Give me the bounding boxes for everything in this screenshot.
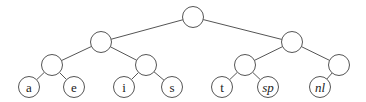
internal-node	[91, 32, 112, 53]
leaf-node-i: i	[114, 77, 135, 98]
internal-node	[42, 55, 63, 76]
tree-edge	[327, 73, 332, 79]
tree-edge	[37, 72, 45, 79]
tree-edge	[62, 46, 92, 60]
leaf-node-sp: sp	[258, 77, 279, 98]
tree-edge	[203, 20, 282, 40]
tree-edge	[254, 47, 282, 61]
tree-edge	[111, 20, 183, 39]
node-circle	[183, 7, 204, 28]
leaf-node-s: s	[162, 77, 183, 98]
tree-edge	[110, 47, 136, 60]
node-label: i	[122, 80, 126, 95]
tree-edge	[131, 72, 138, 79]
node-circle	[91, 32, 112, 53]
leaf-node-a: a	[19, 77, 40, 98]
tree-nodes: aeistspnl	[19, 7, 350, 98]
node-circle	[282, 32, 303, 53]
node-circle	[42, 55, 63, 76]
internal-node	[235, 55, 256, 76]
internal-node	[282, 32, 303, 53]
node-label: s	[169, 80, 174, 95]
huffman-tree-diagram: aeistspnl	[0, 0, 366, 102]
node-label: a	[26, 80, 32, 95]
node-label: sp	[262, 80, 274, 95]
internal-node	[136, 55, 157, 76]
tree-edge	[301, 47, 329, 61]
tree-edge	[253, 72, 261, 79]
node-circle	[136, 55, 157, 76]
tree-edge	[154, 72, 164, 80]
leaf-node-nl: nl	[310, 77, 331, 98]
node-circle	[329, 55, 350, 76]
node-circle	[235, 55, 256, 76]
node-label: nl	[315, 80, 326, 95]
leaf-node-t: t	[212, 77, 233, 98]
internal-node	[183, 7, 204, 28]
tree-edge	[59, 72, 66, 79]
node-label: t	[220, 80, 224, 95]
leaf-node-e: e	[64, 77, 85, 98]
node-label: e	[71, 80, 77, 95]
tree-edge	[230, 72, 238, 79]
internal-node	[329, 55, 350, 76]
